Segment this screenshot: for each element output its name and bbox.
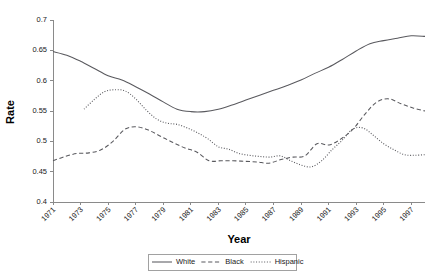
x-axis-title: Year	[227, 233, 251, 245]
y-tick-group: 0.40.450.50.550.60.650.7	[32, 15, 53, 206]
x-tick-label: 1995	[370, 205, 388, 223]
series-line-black	[53, 99, 425, 163]
chart-legend: WhiteBlackHispanic	[148, 254, 304, 270]
x-tick-label: 1997	[397, 205, 415, 223]
y-tick-label: 0.4	[37, 197, 47, 206]
line-chart: 0.40.450.50.550.60.650.7 197119731975197…	[0, 0, 436, 277]
x-tick-label: 1989	[287, 205, 305, 223]
chart-container: 0.40.450.50.550.60.650.7 197119731975197…	[0, 0, 436, 277]
series-line-white	[53, 36, 425, 112]
y-tick-label: 0.65	[32, 45, 47, 54]
x-tick-group: 1971197319751977197919811983198519871989…	[39, 202, 415, 223]
y-tick-label: 0.6	[37, 76, 47, 85]
x-tick-label: 1979	[149, 205, 167, 223]
y-tick-label: 0.45	[32, 167, 47, 176]
x-axis: 1971197319751977197919811983198519871989…	[39, 202, 425, 223]
x-tick-label: 1973	[67, 205, 85, 223]
y-axis: 0.40.450.50.550.60.650.7	[32, 15, 53, 206]
legend-label-white: White	[176, 257, 195, 266]
x-tick-label: 1987	[260, 205, 278, 223]
series-group	[53, 36, 425, 167]
x-tick-label: 1981	[177, 205, 195, 223]
x-tick-label: 1975	[94, 205, 112, 223]
legend-label-hispanic: Hispanic	[275, 257, 304, 266]
x-tick-label: 1985	[232, 205, 250, 223]
x-tick-label: 1977	[122, 205, 140, 223]
x-tick-label: 1983	[205, 205, 223, 223]
legend-label-black: Black	[225, 257, 244, 266]
y-tick-label: 0.7	[37, 15, 47, 24]
y-axis-title: Rate	[4, 100, 16, 124]
x-tick-label: 1971	[39, 205, 57, 223]
x-tick-label: 1991	[315, 205, 333, 223]
y-tick-label: 0.5	[37, 136, 47, 145]
y-tick-label: 0.55	[32, 106, 47, 115]
series-line-hispanic	[84, 90, 425, 167]
x-tick-label: 1993	[342, 205, 360, 223]
